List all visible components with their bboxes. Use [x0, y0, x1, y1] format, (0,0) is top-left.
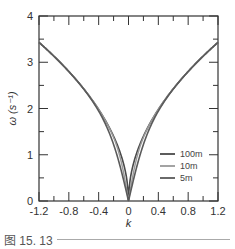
x-tick-label: 0.8 [181, 205, 196, 217]
legend-label-10m: 10m [180, 161, 198, 171]
x-tick-label: 0.4 [151, 205, 166, 217]
x-tick-label: 0 [125, 205, 131, 217]
y-tick-label: 1 [27, 149, 33, 161]
legend-label-100m: 100m [180, 149, 203, 159]
dispersion-chart: -1.2-0.8-0.400.40.81.201234kω (s⁻¹) 100m… [0, 0, 235, 249]
y-tick-label: 0 [27, 195, 33, 207]
y-tick-label: 4 [27, 10, 33, 22]
y-tick-label: 2 [27, 103, 33, 115]
caption-label: 图 15. 13 [4, 231, 53, 248]
x-tick-label: 1.2 [210, 205, 225, 217]
y-tick-label: 3 [27, 56, 33, 68]
x-tick-label: -0.8 [59, 205, 78, 217]
legend-label-5m: 5m [180, 173, 193, 183]
x-axis-label: k [126, 217, 132, 229]
y-axis-label: ω (s⁻¹) [6, 91, 18, 125]
caption-rule [57, 239, 230, 240]
figure-caption: 图 15. 13 [4, 231, 230, 248]
x-tick-label: -0.4 [89, 205, 108, 217]
